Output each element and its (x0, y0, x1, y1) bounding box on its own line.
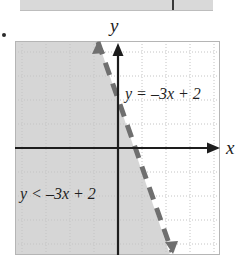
graph-svg (15, 41, 220, 255)
inequality-label: y < –3x + 2 (20, 186, 96, 202)
strip-tick-mark (172, 0, 174, 10)
list-bullet (2, 33, 6, 37)
cropped-figure-strip (20, 0, 213, 11)
x-axis-label: x (226, 138, 234, 157)
boundary-equation-label: y = –3x + 2 (125, 86, 201, 102)
y-axis-label: y (110, 16, 118, 35)
coordinate-plane (15, 41, 220, 255)
inequality-figure: y x (0, 0, 243, 268)
